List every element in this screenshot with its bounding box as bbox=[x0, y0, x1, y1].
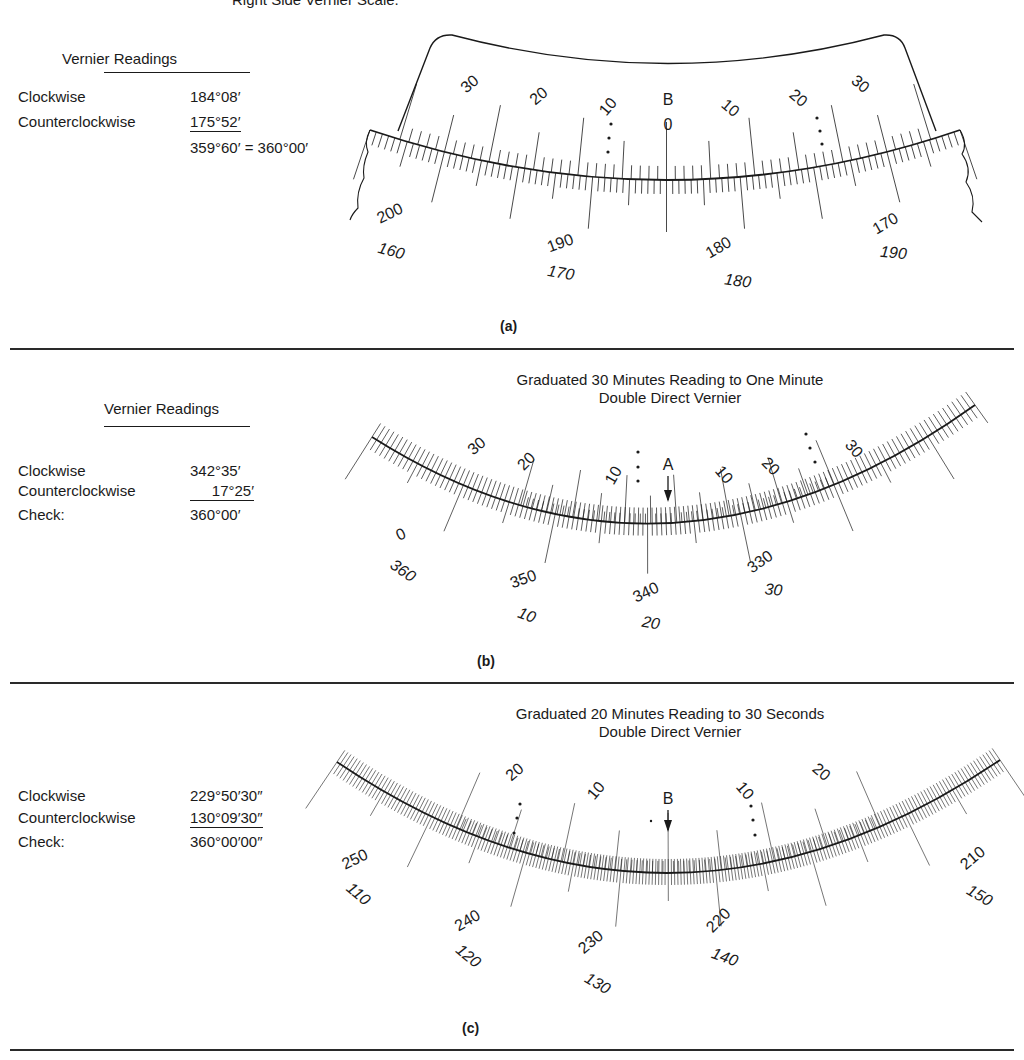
svg-text:230: 230 bbox=[575, 927, 606, 957]
arrow-down-icon bbox=[664, 820, 672, 832]
svg-text:10: 10 bbox=[584, 778, 609, 803]
tick-marks bbox=[306, 748, 1024, 926]
svg-text:150: 150 bbox=[964, 881, 996, 909]
index-mark-B: B bbox=[663, 790, 674, 807]
coincidence-dots bbox=[512, 802, 756, 836]
svg-text:130: 130 bbox=[582, 969, 614, 997]
svg-text:10: 10 bbox=[733, 778, 758, 803]
svg-text:110: 110 bbox=[343, 879, 374, 908]
svg-text:20: 20 bbox=[809, 760, 834, 785]
part-label-c: (c) bbox=[462, 1020, 479, 1036]
svg-text:120: 120 bbox=[453, 941, 484, 971]
svg-text:220: 220 bbox=[703, 905, 734, 936]
vernier-scale-c: B 20 10 10 20 250 240 230 220 210 110 12… bbox=[0, 0, 1024, 1060]
svg-text:140: 140 bbox=[709, 944, 740, 969]
svg-text:210: 210 bbox=[957, 843, 988, 873]
svg-text:240: 240 bbox=[451, 906, 483, 934]
svg-text:250: 250 bbox=[339, 846, 370, 873]
svg-text:20: 20 bbox=[502, 759, 527, 784]
section-divider bbox=[10, 1049, 1014, 1051]
